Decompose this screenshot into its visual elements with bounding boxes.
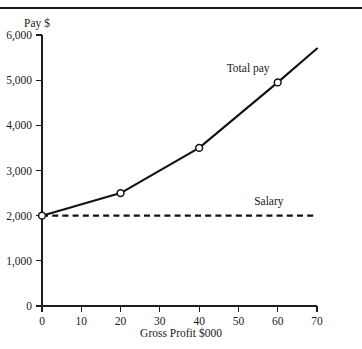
x-tick-label: 60 [258, 315, 298, 327]
y-tick-label: 4,000 [0, 119, 32, 131]
chart-series-lines [42, 49, 317, 216]
chart-axes [42, 35, 317, 306]
y-tick-label: 1,000 [0, 255, 32, 267]
x-axis-title: Gross Profit $000 [0, 327, 362, 340]
x-tick-label: 30 [140, 315, 180, 327]
y-tick-label: 3,000 [0, 165, 32, 177]
x-tick-label: 40 [179, 315, 219, 327]
x-tick-label: 20 [101, 315, 141, 327]
y-tick-label: 0 [0, 300, 32, 312]
chart-figure: 01,0002,0003,0004,0005,0006,000 01020304… [0, 0, 362, 349]
y-axis-title: Pay $ [24, 17, 50, 30]
chart-plot-area [0, 0, 362, 349]
series-label-salary: Salary [254, 195, 283, 208]
x-tick-label: 50 [218, 315, 258, 327]
chart-data-point-markers [39, 79, 282, 219]
y-tick-label: 6,000 [0, 29, 32, 41]
x-tick-label: 10 [61, 315, 101, 327]
chart-tick-marks [36, 35, 317, 312]
x-tick-label: 0 [22, 315, 62, 327]
y-tick-label: 2,000 [0, 210, 32, 222]
series-label-total-pay: Total pay [227, 62, 270, 75]
y-tick-label: 5,000 [0, 74, 32, 86]
x-tick-label: 70 [297, 315, 337, 327]
